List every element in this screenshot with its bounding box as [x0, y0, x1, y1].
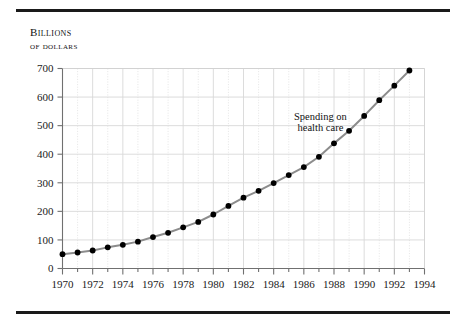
- data-point: [286, 172, 292, 178]
- x-tick-label: 1982: [233, 278, 255, 290]
- data-point: [407, 68, 413, 74]
- y-tick-label: 400: [37, 148, 54, 160]
- y-tick-label: 500: [37, 119, 54, 131]
- figure-container: Billions of dollars 01002003004005006007…: [0, 0, 460, 326]
- data-point: [105, 244, 111, 250]
- y-axis-ticks: [58, 69, 63, 269]
- y-axis-tick-labels: 0100200300400500600700: [37, 62, 54, 274]
- plot-area: 0100200300400500600700 19701972197419761…: [0, 0, 460, 326]
- data-point: [90, 248, 96, 254]
- chart-annotation: Spending onhealth care: [294, 111, 348, 134]
- data-point: [271, 180, 277, 186]
- x-tick-label: 1972: [82, 278, 104, 290]
- x-tick-label: 1992: [383, 278, 405, 290]
- data-point: [316, 154, 322, 160]
- y-tick-label: 300: [37, 177, 54, 189]
- annotation-line1: Spending on: [294, 111, 348, 122]
- data-point: [391, 83, 397, 89]
- x-axis-tick-labels: 1970197219741976197819801982198419861988…: [52, 278, 437, 290]
- data-point: [210, 212, 216, 218]
- y-tick-label: 200: [37, 205, 54, 217]
- x-tick-label: 1978: [172, 278, 195, 290]
- y-tick-label: 100: [37, 234, 54, 246]
- line-chart-svg: 0100200300400500600700 19701972197419761…: [0, 0, 460, 326]
- data-point: [195, 219, 201, 225]
- x-tick-label: 1984: [263, 278, 286, 290]
- data-point: [120, 242, 126, 248]
- data-point: [346, 128, 352, 134]
- data-point: [376, 97, 382, 103]
- x-tick-label: 1988: [323, 278, 346, 290]
- x-tick-label: 1974: [112, 278, 135, 290]
- data-point: [301, 164, 307, 170]
- data-point: [150, 234, 156, 240]
- x-tick-label: 1986: [293, 278, 316, 290]
- annotation-line2: health care: [298, 122, 344, 133]
- data-point: [361, 113, 367, 119]
- data-point: [135, 239, 141, 245]
- data-point: [331, 140, 337, 146]
- data-point: [60, 251, 66, 257]
- x-tick-label: 1970: [52, 278, 75, 290]
- data-point: [241, 195, 247, 201]
- y-tick-label: 0: [48, 262, 54, 274]
- data-point: [165, 230, 171, 236]
- data-point: [180, 224, 186, 230]
- x-tick-label: 1976: [142, 278, 165, 290]
- data-point: [226, 203, 232, 209]
- x-tick-label: 1980: [202, 278, 225, 290]
- y-tick-label: 600: [37, 91, 54, 103]
- data-point-markers: [60, 68, 413, 258]
- x-axis-ticks: [63, 269, 425, 275]
- data-point: [75, 250, 81, 256]
- series-line-health-care: [63, 71, 410, 255]
- x-tick-label: 1990: [353, 278, 376, 290]
- data-point: [256, 188, 262, 194]
- x-tick-label: 1994: [414, 278, 437, 290]
- data-line: [63, 71, 410, 255]
- y-tick-label: 700: [37, 62, 54, 74]
